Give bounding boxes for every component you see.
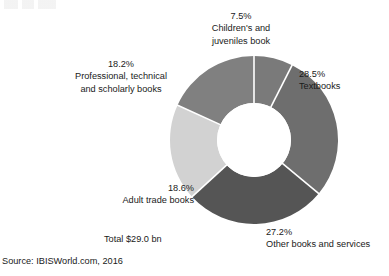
callout-professional-technical: 18.2% Professional, technical and schola…: [42, 58, 200, 95]
callout-adult-trade-books: 18.6% Adult trade books: [72, 182, 194, 207]
callout-professional-line2: and scholarly books: [42, 83, 200, 95]
callout-children-line1: Children's and: [186, 22, 296, 34]
callout-adult-trade-label: Adult trade books: [72, 194, 194, 206]
callout-other-percent: 27.2%: [266, 226, 389, 238]
callout-professional-percent: 18.2%: [42, 58, 200, 70]
donut-center-hole: [217, 103, 291, 177]
callout-adult-trade-percent: 18.6%: [72, 182, 194, 194]
callout-other-label: Other books and services: [266, 238, 389, 250]
chart-source-note: Source: IBISWorld.com, 2016: [2, 255, 123, 267]
callout-textbooks: 28.5% Textbooks: [299, 68, 385, 93]
callout-professional-line1: Professional, technical: [42, 70, 200, 82]
scan-artifact: [4, 0, 56, 9]
callout-other-books-services: 27.2% Other books and services: [266, 226, 389, 251]
chart-total-label: Total $29.0 bn: [104, 233, 162, 245]
donut-chart-figure: 7.5% Children's and juveniles book 18.2%…: [0, 0, 389, 276]
callout-children-juveniles: 7.5% Children's and juveniles book: [186, 10, 296, 47]
callout-textbooks-label: Textbooks: [299, 80, 385, 92]
callout-children-percent: 7.5%: [186, 10, 296, 22]
callout-textbooks-percent: 28.5%: [299, 68, 385, 80]
callout-children-line2: juveniles book: [186, 35, 296, 47]
